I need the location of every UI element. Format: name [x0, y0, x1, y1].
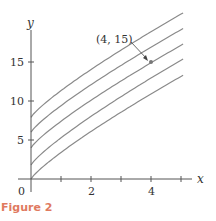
x-tick-label: 4 — [148, 185, 155, 198]
chart-plot: 24 51015 x y 0 (4, 15) — [0, 0, 216, 200]
y-tick-label: 5 — [17, 134, 24, 147]
origin-label: 0 — [18, 185, 25, 198]
curve-5 — [31, 13, 183, 118]
y-tick-label: 15 — [10, 56, 24, 69]
figure-caption: Figure 2 — [1, 201, 52, 214]
annotation-dot — [149, 60, 153, 64]
y-tick-label: 10 — [10, 95, 24, 108]
annotation-label: (4, 15) — [96, 33, 133, 46]
x-tick-label: 2 — [88, 185, 95, 198]
x-axis-label: x — [197, 172, 204, 186]
y-ticks: 51015 — [10, 56, 34, 147]
y-axis-label: y — [26, 16, 34, 30]
